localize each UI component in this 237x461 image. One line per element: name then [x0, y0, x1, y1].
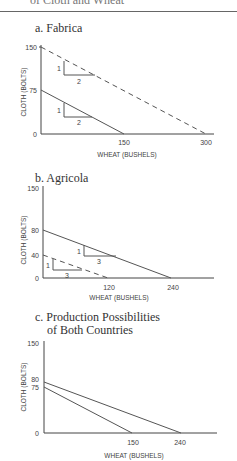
y-tick-label: 75	[29, 87, 37, 94]
slope-run-label: 2	[77, 78, 81, 85]
y-tick-label: 75	[31, 384, 39, 391]
slope-run-label: 2	[77, 119, 81, 126]
agricola-ppf-line	[44, 382, 181, 433]
x-axis-label: WHEAT (BUSHELS)	[89, 294, 148, 302]
chart-both-countries: 150 80 75 0 150 240 WHEAT (BUSHELS) CLOT…	[20, 340, 217, 460]
y-tick-label: 80	[31, 227, 39, 234]
y-axis-label: CLOTH (BOLTS)	[20, 363, 28, 412]
y-tick-label: 150	[27, 185, 39, 192]
y-tick-label: 150	[25, 44, 37, 51]
y-tick-label: 40	[31, 252, 39, 259]
dashed-ppf-line	[41, 47, 206, 134]
chart-fabrica: 150 75 0 150 300 1 2 1 2 WHEAT (BUSHELS)…	[20, 44, 214, 159]
x-tick-label: 120	[103, 284, 115, 291]
slope-run-label: 3	[65, 272, 69, 279]
y-axis-label: CLOTH (BOLTS)	[20, 68, 28, 117]
y-tick-label: 80	[31, 376, 39, 383]
x-tick-label: 150	[118, 139, 130, 146]
slope-rise-label: 1	[57, 65, 61, 72]
y-axis-label: CLOTH (BOLTS)	[20, 216, 28, 265]
y-tick-label: 150	[27, 340, 39, 347]
solid-ppf-line	[41, 90, 124, 134]
slope-run-label: 3	[97, 258, 101, 265]
charts-canvas: 150 75 0 150 300 1 2 1 2 WHEAT (BUSHELS)…	[0, 0, 237, 461]
solid-ppf-line	[43, 230, 171, 278]
x-tick-label: 240	[174, 439, 186, 446]
slope-rise-label: 1	[57, 107, 61, 114]
y-tick-label: 0	[35, 275, 39, 282]
slope-rise-label: 1	[46, 262, 50, 269]
x-axis-label: WHEAT (BUSHELS)	[104, 452, 163, 460]
x-tick-label: 150	[127, 439, 139, 446]
chart-agricola: 150 80 40 0 120 240 1 3 1 3 WHEAT (BUSHE…	[20, 185, 214, 302]
y-tick-label: 0	[33, 131, 37, 138]
x-tick-label: 300	[200, 139, 212, 146]
slope-triangle-lower	[53, 259, 82, 270]
y-tick-label: 0	[35, 430, 39, 437]
slope-rise-label: 1	[77, 248, 81, 255]
x-axis-label: WHEAT (BUSHELS)	[97, 151, 156, 159]
x-tick-label: 240	[167, 284, 179, 291]
